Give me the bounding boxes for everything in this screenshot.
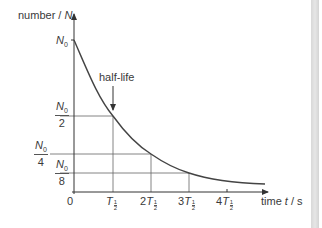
x-axis-title: time t / s <box>261 196 303 207</box>
decay-chart <box>0 0 322 228</box>
x-tick-t-half: T12 <box>106 196 117 211</box>
x-tick-4t-half: 4T12 <box>216 196 233 211</box>
y-tick-n0-eighth: N0 8 <box>55 159 69 187</box>
y-axis-title: number / N <box>18 10 72 21</box>
y-tick-n0: N0 <box>56 35 68 48</box>
guide-lines <box>50 116 189 192</box>
x-tick-3t-half: 3T12 <box>178 196 195 211</box>
decay-curve <box>74 40 265 184</box>
page-edge-scrollbar[interactable] <box>311 0 319 228</box>
x-tick-zero: 0 <box>67 196 73 207</box>
y-tick-n0-quarter: N0 4 <box>34 140 48 168</box>
y-tick-n0-half: N0 2 <box>55 101 69 129</box>
half-life-label: half-life <box>99 72 134 83</box>
x-tick-2t-half: 2T12 <box>140 196 157 211</box>
